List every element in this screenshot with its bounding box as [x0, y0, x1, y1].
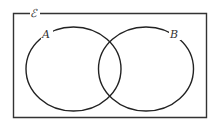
set-b-label: B [169, 28, 178, 41]
universal-set-label: ℰ [30, 7, 38, 20]
venn-diagram: ℰ A B [0, 0, 213, 123]
set-a-label: A [41, 28, 50, 41]
set-a-circle [26, 27, 121, 111]
